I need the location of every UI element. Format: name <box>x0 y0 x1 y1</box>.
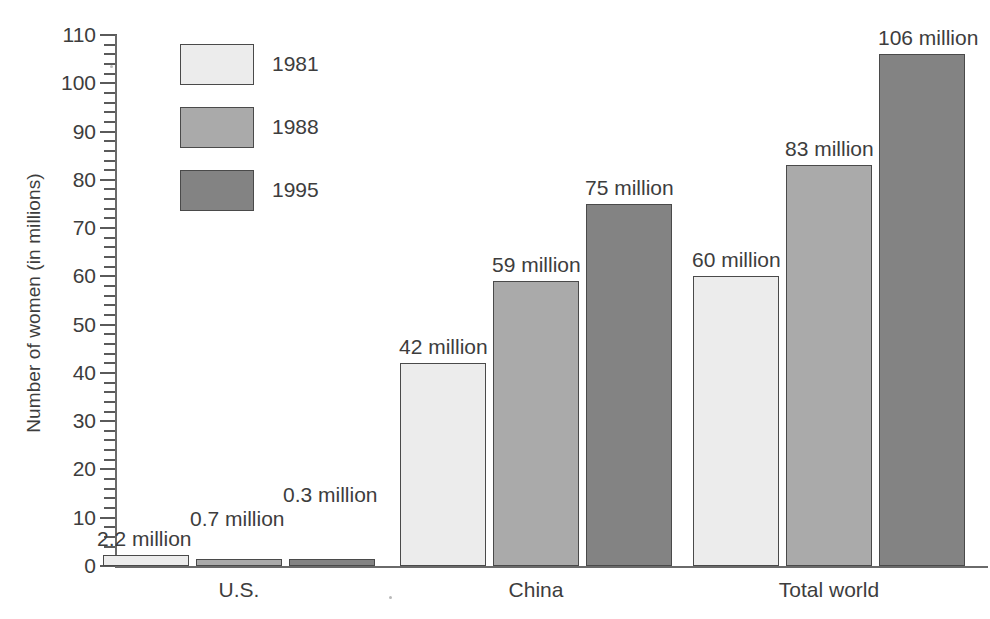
bar[interactable] <box>693 276 779 566</box>
bar-value-label: 106 million <box>878 26 978 50</box>
bar[interactable] <box>493 281 579 566</box>
bar[interactable] <box>289 559 375 566</box>
bar-value-label: 0.7 million <box>190 507 285 531</box>
x-axis-category-label: Total world <box>693 578 965 602</box>
bar-value-label: 75 million <box>585 176 674 200</box>
plot-area: 2.2 million0.7 million0.3 million42 mill… <box>0 0 990 567</box>
scan-speck <box>389 596 392 599</box>
bar[interactable] <box>400 363 486 566</box>
bar-value-label: 0.3 million <box>283 483 378 507</box>
bar-value-label: 42 million <box>399 335 488 359</box>
bar[interactable] <box>879 54 965 566</box>
x-axis-category-label: China <box>400 578 672 602</box>
bar[interactable] <box>586 204 672 566</box>
bar[interactable] <box>786 165 872 566</box>
bar-value-label: 60 million <box>692 248 781 272</box>
bar-value-label: 2.2 million <box>97 527 192 551</box>
bar[interactable] <box>196 559 282 566</box>
x-axis-category-label: U.S. <box>103 578 375 602</box>
bar-value-label: 83 million <box>785 137 874 161</box>
bar[interactable] <box>103 555 189 566</box>
bar-value-label: 59 million <box>492 253 581 277</box>
bar-chart: Number of women (in millions) 1101009080… <box>0 0 990 619</box>
scan-speck <box>110 65 113 68</box>
